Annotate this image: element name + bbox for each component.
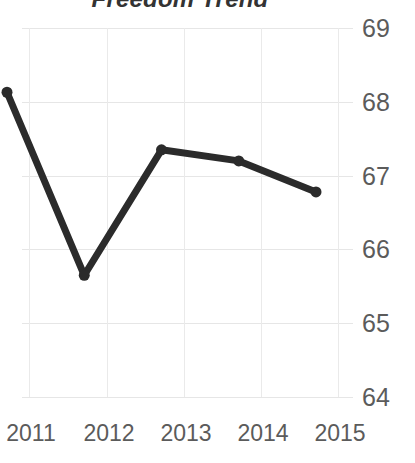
y-tick-label-66: 66 (362, 235, 404, 263)
y-tick-label-67: 67 (362, 162, 404, 190)
y-tick-label-65: 65 (362, 309, 404, 337)
chart-container: Freedom Trend 69 68 67 66 65 64 2011 201… (0, 0, 415, 463)
gridline-y-69 (22, 28, 353, 29)
data-point-2011 (2, 87, 13, 98)
gridline-x-2012 (107, 28, 108, 397)
gridline-y-66 (22, 249, 353, 250)
y-tick-label-64: 64 (362, 383, 404, 411)
y-tick-label-68: 68 (362, 88, 404, 116)
gridline-y-67 (22, 176, 353, 177)
gridline-x-2015 (338, 28, 339, 397)
x-tick-label-2015: 2015 (295, 420, 385, 446)
gridline-x-2013 (184, 28, 185, 397)
chart-title: Freedom Trend (0, 0, 360, 12)
y-tick-label-69: 69 (362, 14, 404, 42)
gridline-y-65 (22, 323, 353, 324)
plot-area (22, 28, 353, 397)
gridline-x-2014 (261, 28, 262, 397)
gridline-y-68 (22, 102, 353, 103)
gridline-y-64 (22, 397, 353, 398)
gridline-x-2011 (29, 28, 30, 397)
